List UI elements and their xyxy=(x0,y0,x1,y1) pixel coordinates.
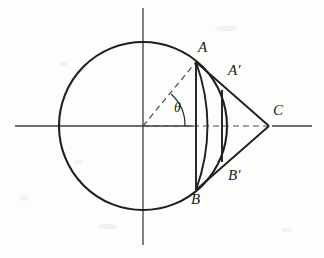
label-point-C: C xyxy=(273,103,283,118)
label-point-B: B xyxy=(191,192,200,207)
label-point-A-prime: A′ xyxy=(228,63,240,78)
label-point-B-prime: B′ xyxy=(228,168,240,183)
figure-canvas xyxy=(0,0,324,258)
label-theta-angle: θ xyxy=(174,101,181,115)
label-point-A: A xyxy=(198,40,207,55)
geometry-figure: A B A′ B′ C θ xyxy=(0,0,324,258)
radius-dashed-line-to-A xyxy=(143,62,196,126)
